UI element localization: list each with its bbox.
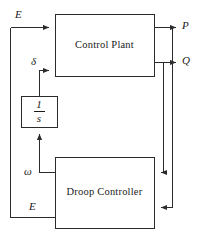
block-diagram: Control Plant 1 s Droop Controller E δ ω… — [0, 0, 203, 239]
integrator-denominator: s — [34, 112, 44, 124]
signal-label-e-input-top: E — [15, 8, 22, 20]
droop-controller-label: Droop Controller — [55, 186, 154, 197]
integrator-label: 1 s — [21, 96, 57, 127]
q-feedback-line — [161, 63, 164, 173]
control-plant-label: Control Plant — [55, 39, 154, 50]
signal-label-delta: δ — [31, 55, 36, 67]
omega-to-integrator-line — [40, 134, 56, 173]
signal-label-q-output: Q — [182, 54, 190, 66]
signal-label-p-output: P — [182, 19, 189, 31]
signal-label-e-input-bottom: E — [29, 200, 36, 212]
integrator-numerator: 1 — [33, 99, 45, 111]
signal-label-omega: ω — [24, 165, 32, 177]
p-feedback-line — [161, 28, 173, 208]
integrator-to-plant-delta-line — [40, 71, 50, 97]
